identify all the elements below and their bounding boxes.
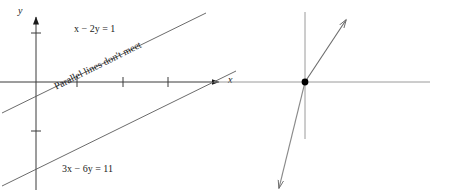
first-column-vector	[305, 20, 346, 82]
x-axis-label: x	[228, 75, 232, 86]
row-picture-panel: y x x − 2y = 1 3x − 6y = 11 Parallel lin…	[0, 0, 240, 195]
second-column-vector	[279, 82, 305, 188]
y-axis-label: y	[18, 6, 22, 17]
figure-container: y x x − 2y = 1 3x − 6y = 11 Parallel lin…	[0, 0, 473, 195]
equation-label-top: x − 2y = 1	[74, 24, 115, 35]
column-picture-panel: first column 1 3 second column −2 −6 Col…	[240, 0, 473, 195]
origin-dot	[302, 79, 309, 86]
equation-label-bottom: 3x − 6y = 11	[62, 164, 113, 175]
column-picture-graphic	[240, 0, 473, 195]
line-3x-minus-6y-equals-11	[2, 71, 236, 186]
row-picture-graphic	[0, 0, 240, 195]
